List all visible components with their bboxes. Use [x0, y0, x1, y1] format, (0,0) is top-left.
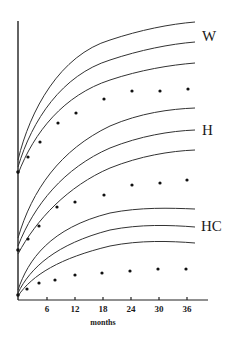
x-axis-label: months	[90, 318, 115, 327]
label-hc: HC	[201, 218, 222, 235]
tick-label-36: 36	[183, 304, 192, 314]
hc-curves	[18, 208, 195, 296]
w-curves	[18, 22, 195, 174]
tick-label-6: 6	[45, 304, 50, 314]
growth-chart	[0, 0, 236, 346]
tick-label-18: 18	[99, 304, 108, 314]
tick-label-24: 24	[127, 304, 136, 314]
label-h: H	[202, 122, 213, 139]
hc-points	[16, 267, 187, 296]
h-curves	[18, 108, 195, 254]
tick-label-30: 30	[155, 304, 164, 314]
label-w: W	[202, 28, 216, 45]
tick-label-12: 12	[71, 304, 80, 314]
w-points	[16, 87, 189, 173]
